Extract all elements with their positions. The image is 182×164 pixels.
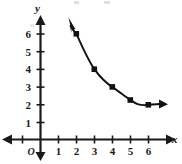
coordinate-plane-graph: 1 2 3 4 5 6 1 2 3 4 5 6 y x O — [0, 0, 182, 164]
data-point-markers — [74, 31, 152, 108]
data-point-4-3 — [110, 84, 116, 90]
y-tick-label-1: 1 — [26, 117, 32, 129]
data-point-5-2point4 — [128, 97, 134, 103]
y-tick-label-5: 5 — [26, 46, 32, 58]
y-tick-label-4: 4 — [26, 63, 32, 75]
chart-canvas: 1 2 3 4 5 6 1 2 3 4 5 6 y x O — [0, 0, 182, 164]
x-tick-label-4: 4 — [110, 145, 116, 157]
y-axis-label: y — [33, 2, 40, 14]
data-point-3-4 — [92, 66, 98, 72]
y-tick-label-2: 2 — [26, 99, 32, 111]
data-curve-group — [69, 18, 169, 109]
x-tick-label-5: 5 — [128, 145, 134, 157]
x-tick-label-1: 1 — [56, 145, 62, 157]
x-tick-label-6: 6 — [146, 145, 152, 157]
y-tick-label-3: 3 — [26, 81, 32, 93]
x-axis-left-arrow-icon — [2, 135, 12, 145]
data-point-6-2 — [146, 102, 152, 108]
y-tick-label-6: 6 — [26, 28, 32, 40]
curve-right-arrow-icon — [159, 100, 168, 109]
y-axis-up-arrow-icon — [36, 15, 46, 25]
x-tick-label-2: 2 — [74, 145, 80, 157]
origin-label: O — [27, 146, 34, 157]
x-tick-labels: 1 2 3 4 5 6 — [56, 145, 152, 157]
x-tick-label-3: 3 — [92, 145, 98, 157]
data-point-2-6 — [74, 31, 80, 37]
hyperbola-curve — [71, 26, 161, 105]
x-axis-label: x — [171, 133, 178, 145]
y-tick-labels: 1 2 3 4 5 6 — [26, 28, 32, 129]
y-axis-down-arrow-icon — [36, 152, 46, 161]
